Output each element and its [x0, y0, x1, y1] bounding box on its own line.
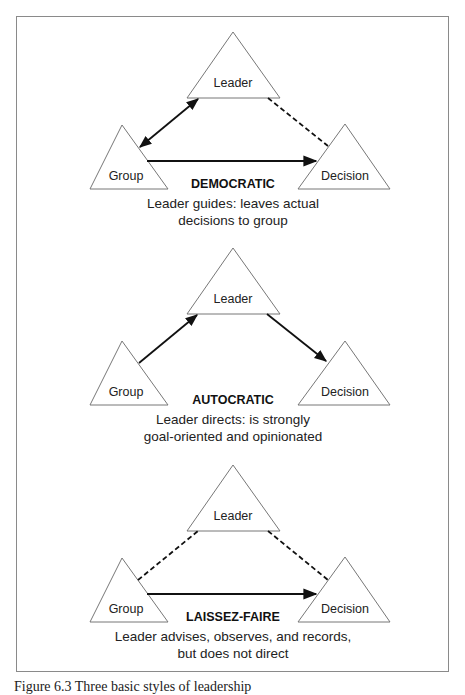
- panel-laissez-faire: Leader Group Decision LAISSEZ-FAIRE Lead…: [90, 465, 390, 661]
- decision-label: Decision: [321, 602, 369, 616]
- leader-label: Leader: [214, 509, 253, 523]
- style-description-line2: goal-oriented and opinionated: [144, 429, 323, 444]
- panel-autocratic: Leader Group Decision AUTOCRATIC Leader …: [90, 248, 390, 444]
- style-description-line1: Leader guides: leaves actual: [147, 196, 319, 211]
- group-label: Group: [109, 385, 144, 399]
- style-description-line2: but does not direct: [177, 646, 288, 661]
- panel-democratic: Leader Group Decision DEMOCRATIC Leader …: [90, 32, 390, 228]
- edge-leader-decision: [267, 314, 326, 361]
- edge-group-leader-bidirectional: [140, 99, 198, 147]
- edge-group-leader-dashed: [138, 531, 198, 580]
- figure-caption: Figure 6.3 Three basic styles of leaders…: [14, 679, 251, 695]
- style-title: LAISSEZ-FAIRE: [186, 610, 280, 624]
- style-description-line2: decisions to group: [178, 213, 288, 228]
- edge-leader-decision-dashed: [268, 531, 328, 580]
- style-title: AUTOCRATIC: [192, 393, 273, 407]
- style-title: DEMOCRATIC: [191, 177, 275, 191]
- group-label: Group: [109, 169, 144, 183]
- edge-leader-decision-dashed: [268, 98, 328, 146]
- group-label: Group: [109, 602, 144, 616]
- style-description-line1: Leader advises, observes, and records,: [115, 629, 351, 644]
- edge-group-leader: [139, 315, 197, 363]
- decision-label: Decision: [321, 385, 369, 399]
- leader-label: Leader: [214, 292, 253, 306]
- style-description-line1: Leader directs: is strongly: [156, 412, 310, 427]
- leader-label: Leader: [214, 76, 253, 90]
- decision-label: Decision: [321, 169, 369, 183]
